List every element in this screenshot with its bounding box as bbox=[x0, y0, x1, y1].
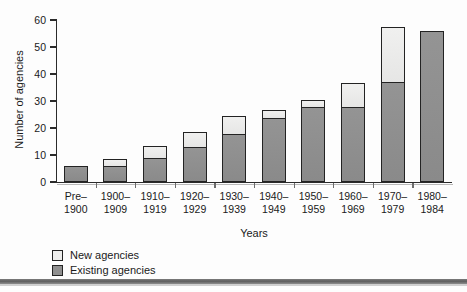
y-tick-mark bbox=[50, 73, 56, 74]
y-tick-label-wrap: 0 bbox=[20, 177, 46, 188]
legend-swatch-new-agencies bbox=[52, 250, 63, 261]
legend-label-new-agencies: New agencies bbox=[70, 250, 139, 261]
x-category-label-line: 1929 bbox=[175, 203, 215, 216]
x-category-label-line: 1969 bbox=[333, 203, 373, 216]
x-tick-mark bbox=[135, 183, 136, 188]
y-tick-mark bbox=[50, 19, 56, 20]
x-category-label-line: 1939 bbox=[214, 203, 254, 216]
x-category-label-line: 1900 bbox=[56, 203, 96, 216]
x-category-label-line: 1984 bbox=[412, 203, 452, 216]
page-edge-rule-soft bbox=[0, 284, 467, 286]
y-tick-label: 50 bbox=[22, 42, 46, 53]
bar-segment-existing-agencies bbox=[103, 166, 127, 182]
chart-figure: 0102030405060 Pre–19001900–19091910–1919… bbox=[0, 0, 467, 292]
legend-swatch-existing-agencies bbox=[52, 265, 63, 276]
x-category-label: Pre–1900 bbox=[56, 190, 96, 215]
bar-segment-existing-agencies bbox=[341, 106, 365, 182]
bar-segment-existing-agencies bbox=[262, 117, 286, 182]
bar-2 bbox=[103, 158, 127, 182]
y-tick-label: 30 bbox=[22, 96, 46, 107]
x-axis-title: Years bbox=[56, 228, 452, 239]
x-category-label-line: 1940– bbox=[254, 190, 294, 203]
y-tick-label-wrap: 60 bbox=[20, 15, 46, 26]
x-category-label-line: 1900– bbox=[96, 190, 136, 203]
x-tick-mark bbox=[333, 183, 334, 188]
x-category-label: 1910–1919 bbox=[135, 190, 175, 215]
bar-segment-new-agencies bbox=[143, 146, 167, 160]
x-category-label: 1970–1979 bbox=[373, 190, 413, 215]
bar-10 bbox=[420, 31, 444, 182]
y-tick-mark bbox=[50, 154, 56, 155]
x-category-label-line: 1960– bbox=[333, 190, 373, 203]
y-tick-label: 60 bbox=[22, 15, 46, 26]
x-category-label-line: 1970– bbox=[373, 190, 413, 203]
bar-segment-existing-agencies bbox=[381, 82, 405, 182]
x-tick-mark bbox=[214, 183, 215, 188]
bar-segment-existing-agencies bbox=[64, 166, 88, 182]
x-category-label-line: 1959 bbox=[294, 203, 334, 216]
bar-segment-new-agencies bbox=[183, 132, 207, 148]
x-tick-mark bbox=[373, 183, 374, 188]
bar-8 bbox=[341, 82, 365, 182]
chart-legend: New agencies Existing agencies bbox=[52, 248, 156, 278]
y-tick-mark bbox=[50, 46, 56, 47]
x-category-label: 1980–1984 bbox=[412, 190, 452, 215]
bar-segment-new-agencies bbox=[301, 100, 325, 108]
bar-segment-new-agencies bbox=[341, 83, 365, 107]
bar-segment-existing-agencies bbox=[143, 158, 167, 182]
x-category-label: 1920–1929 bbox=[175, 190, 215, 215]
y-tick-label: 10 bbox=[22, 150, 46, 161]
bar-9 bbox=[381, 25, 405, 182]
bar-segment-existing-agencies bbox=[222, 133, 246, 182]
x-category-label: 1900–1909 bbox=[96, 190, 136, 215]
y-axis-title: Number of agencies bbox=[14, 40, 25, 160]
x-category-label: 1940–1949 bbox=[254, 190, 294, 215]
bar-3 bbox=[143, 144, 167, 182]
x-category-label-line: 1950– bbox=[294, 190, 334, 203]
bar-segment-new-agencies bbox=[381, 27, 405, 84]
bar-5 bbox=[222, 115, 246, 183]
x-tick-mark bbox=[254, 183, 255, 188]
bar-segment-existing-agencies bbox=[420, 31, 444, 182]
x-category-label: 1950–1959 bbox=[294, 190, 334, 215]
bar-segment-existing-agencies bbox=[183, 147, 207, 182]
legend-label-existing-agencies: Existing agencies bbox=[70, 265, 156, 276]
bar-7 bbox=[301, 98, 325, 182]
x-tick-mark bbox=[412, 183, 413, 188]
x-category-label-line: 1980– bbox=[412, 190, 452, 203]
y-tick-mark bbox=[50, 100, 56, 101]
x-category-label-line: Pre– bbox=[56, 190, 96, 203]
x-category-label-line: 1919 bbox=[135, 203, 175, 216]
x-category-label-line: 1979 bbox=[373, 203, 413, 216]
y-axis-line bbox=[56, 19, 57, 183]
bar-6 bbox=[262, 109, 286, 182]
x-tick-mark bbox=[96, 183, 97, 188]
x-category-label-line: 1949 bbox=[254, 203, 294, 216]
bar-1 bbox=[64, 166, 88, 182]
x-category-label: 1960–1969 bbox=[333, 190, 373, 215]
x-tick-mark bbox=[175, 183, 176, 188]
y-tick-label: 40 bbox=[22, 69, 46, 80]
bar-segment-existing-agencies bbox=[301, 106, 325, 182]
bar-segment-new-agencies bbox=[103, 159, 127, 167]
x-category-label-line: 1909 bbox=[96, 203, 136, 216]
y-tick-label: 20 bbox=[22, 123, 46, 134]
bar-segment-new-agencies bbox=[222, 116, 246, 135]
y-tick-mark bbox=[50, 127, 56, 128]
x-category-label-line: 1930– bbox=[214, 190, 254, 203]
bar-segment-new-agencies bbox=[262, 110, 286, 118]
x-tick-mark bbox=[294, 183, 295, 188]
y-tick-label: 0 bbox=[22, 177, 46, 188]
plot-area: 0102030405060 Pre–19001900–19091910–1919… bbox=[0, 0, 467, 292]
bar-4 bbox=[183, 131, 207, 182]
x-category-label: 1930–1939 bbox=[214, 190, 254, 215]
y-tick-mark bbox=[50, 181, 56, 182]
x-category-label-line: 1920– bbox=[175, 190, 215, 203]
x-category-label-line: 1910– bbox=[135, 190, 175, 203]
legend-item-existing-agencies: Existing agencies bbox=[52, 263, 156, 278]
legend-item-new-agencies: New agencies bbox=[52, 248, 156, 263]
